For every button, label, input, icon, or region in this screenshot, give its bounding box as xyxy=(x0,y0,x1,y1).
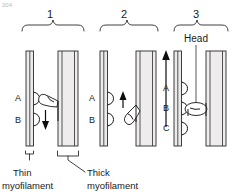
panel-2-number: 2 xyxy=(121,8,127,20)
panel-3-site-label-a: A xyxy=(163,83,169,93)
panel-3-site-label-b: B xyxy=(163,103,169,113)
head-label: Head xyxy=(184,33,208,44)
panel-1-site-label-a: A xyxy=(15,93,21,103)
panel-1-number: 1 xyxy=(47,8,53,20)
panel-2-site-label-b: B xyxy=(89,115,95,125)
figure-canvas: 204 1 A B xyxy=(0,0,248,196)
panel-1-site-label-b: B xyxy=(15,115,21,125)
corner-page-note: 204 xyxy=(2,2,13,8)
panel-3-myosin-head xyxy=(185,103,207,117)
thick-myofilament-caption-line1: Thick xyxy=(87,167,110,178)
panel-2-thick-myofilament xyxy=(136,51,156,146)
panel-3-site-label-c: C xyxy=(163,123,170,133)
panel-1-thick-myofilament xyxy=(58,51,78,146)
thick-myofilament-caption-line2: myofilament xyxy=(87,180,139,191)
thin-myofilament-caption-line2: myofilament xyxy=(2,180,54,191)
panel-3-thick-myofilament xyxy=(206,51,226,146)
panel-2-site-label-a: A xyxy=(89,93,95,103)
panel-3-number: 3 xyxy=(193,8,199,20)
thin-myofilament-caption-line1: Thin xyxy=(13,167,31,178)
